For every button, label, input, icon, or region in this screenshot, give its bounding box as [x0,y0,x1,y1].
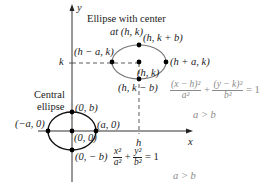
label-a-0: (a, 0) [97,120,120,131]
x-axis-label: x [188,137,193,148]
label-h-plus-a-k: (h + a, k) [170,57,210,68]
eq1-plus: + [204,84,210,95]
y-axis-label: y [77,3,82,14]
label-origin: (0, 0) [74,133,97,144]
label-0-b: (0, b) [75,103,98,114]
shifted-ellipse-title: Ellipse with center [87,14,166,25]
eq1-den2: b² [224,91,232,101]
eq2-den1: a² [114,158,122,168]
point-top-vertex [137,43,142,48]
point-central-top [70,110,75,115]
label-h-minus-a-k: (h − a, k) [74,47,114,58]
eq2-den2: b² [134,158,142,168]
x-axis-arrow-icon [186,129,193,134]
label-h-k-minus-b: (h, k − b) [118,83,158,94]
central-ellipse-equation: x²a² + y²b² = 1 [113,147,159,168]
point-center-hk [137,60,142,65]
label-neg-a-0: (−a, 0) [15,119,45,130]
shifted-ellipse-subtitle: at (h, k) [110,27,143,38]
k-tick-label: k [59,57,64,68]
central-ellipse-subtitle: ellipse [37,102,64,113]
eq1-equals: = 1 [246,84,260,95]
label-0-neg-b: (0, − b) [75,152,107,163]
point-central-bottom [70,148,75,153]
y-axis-arrow-icon [70,4,75,11]
central-ellipse-condition: a > b [173,171,196,182]
point-left-vertex [110,60,115,65]
shifted-ellipse-condition: a > b [193,110,216,121]
point-central-left [46,129,51,134]
eq1-den1: a² [182,91,190,101]
central-ellipse-title: Central [34,90,65,101]
eq2-plus: + [125,151,131,162]
point-right-vertex [164,60,169,65]
eq2-equals: = 1 [145,151,159,162]
shifted-ellipse-equation: (x − h)²a² + (y − k)²b² = 1 [170,80,260,101]
label-center-hk: (h, k) [137,68,159,79]
label-h-k-plus-b: (h, k + b) [143,33,183,44]
